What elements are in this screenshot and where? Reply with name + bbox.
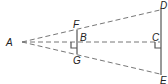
label-F: F [73, 19, 80, 30]
segment-AD [22, 10, 160, 42]
segment-AE [22, 42, 160, 74]
geometry-diagram: A F B G C D E [0, 0, 168, 84]
label-C: C [152, 32, 160, 43]
label-G: G [73, 55, 81, 66]
label-A: A [5, 37, 13, 48]
label-E: E [160, 75, 167, 84]
label-D: D [160, 0, 167, 11]
right-angle-marker-B [71, 42, 77, 48]
label-B: B [80, 32, 87, 43]
